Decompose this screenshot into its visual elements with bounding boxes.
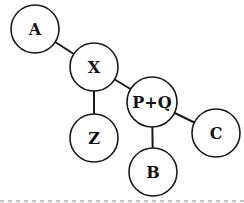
node-label: P+Q [132, 93, 171, 112]
node-x: X [70, 43, 118, 91]
diagram-canvas: AXZP+QBC [0, 0, 244, 203]
node-label: A [28, 20, 42, 39]
node-pq: P+Q [127, 77, 177, 127]
node-label: C [210, 124, 223, 143]
node-b: B [129, 148, 177, 196]
node-label: B [146, 163, 160, 182]
node-z: Z [70, 114, 118, 162]
nodes-layer: AXZP+QBC [11, 5, 240, 196]
node-label: X [88, 58, 101, 77]
cutoff-caption-fragment [0, 198, 244, 203]
edges-layer [35, 29, 216, 172]
tree-diagram: AXZP+QBC [0, 0, 244, 203]
node-c: C [192, 109, 240, 157]
node-label: Z [88, 129, 100, 148]
node-a: A [11, 5, 59, 53]
